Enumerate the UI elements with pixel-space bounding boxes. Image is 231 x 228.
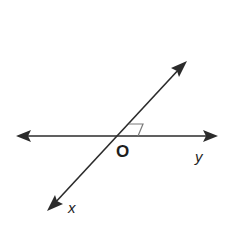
ray-y-label: y <box>194 148 204 165</box>
point-o-label: O <box>116 142 129 161</box>
intersecting-lines-diagram: O y x <box>0 0 231 228</box>
ray-x-label: x <box>67 199 76 216</box>
right-angle-mark-icon <box>129 124 143 136</box>
